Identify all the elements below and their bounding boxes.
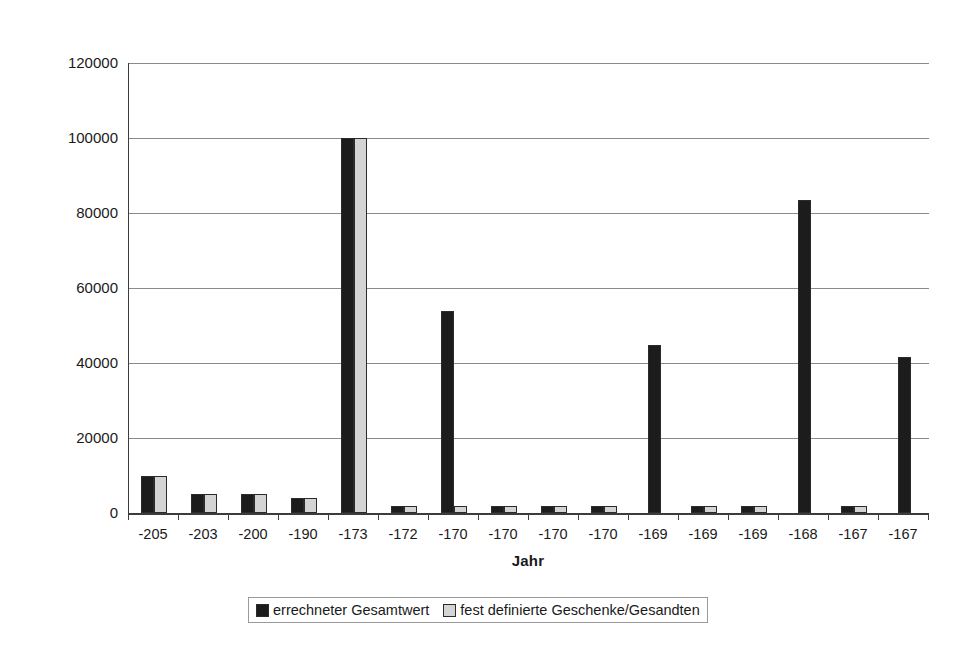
x-axis-tick-mark (378, 513, 379, 520)
x-axis-tick-mark (478, 513, 479, 520)
legend-entry: fest definierte Geschenke/Gesandten (443, 602, 699, 618)
x-axis-tick-label: -170 (428, 524, 478, 546)
x-axis-tick-label: -200 (228, 524, 278, 546)
x-axis-tick-marks (128, 513, 928, 521)
bar-chart: Gesamtwert in As 02000040000600008000010… (0, 0, 968, 652)
y-axis-tick-label: 100000 (52, 130, 118, 145)
bar (854, 506, 867, 513)
bar-group (329, 63, 379, 513)
legend-swatch-icon (443, 604, 456, 617)
bar-group (229, 63, 279, 513)
bar-group (479, 63, 529, 513)
bar (291, 498, 304, 513)
bar (354, 138, 367, 513)
x-axis-tick-mark (678, 513, 679, 520)
y-axis-tick-label: 40000 (52, 355, 118, 370)
x-axis-tick-label: -169 (728, 524, 778, 546)
x-axis-tick-label: -170 (578, 524, 628, 546)
bar (491, 506, 504, 514)
x-axis-tick-label: -169 (628, 524, 678, 546)
bar (504, 506, 517, 514)
bar-group (579, 63, 629, 513)
x-axis-tick-label: -170 (528, 524, 578, 546)
bar (554, 506, 567, 514)
x-axis-tick-label: -167 (828, 524, 878, 546)
bar (141, 476, 154, 514)
x-axis-tick-label: -167 (878, 524, 928, 546)
x-axis-tick-mark (778, 513, 779, 520)
bar (741, 506, 754, 514)
bars-layer (129, 63, 929, 513)
x-axis-tick-label: -170 (478, 524, 528, 546)
bar (754, 506, 767, 514)
bar-group (679, 63, 729, 513)
legend-label: errechneter Gesamtwert (273, 602, 429, 618)
x-axis-tick-mark (928, 513, 929, 520)
bar (404, 506, 417, 514)
bar (304, 498, 317, 513)
x-axis-tick-mark (128, 513, 129, 520)
x-axis-tick-mark (178, 513, 179, 520)
x-axis-tick-label: -190 (278, 524, 328, 546)
x-axis-tick-mark (628, 513, 629, 520)
bar-group (829, 63, 879, 513)
bar-group (129, 63, 179, 513)
legend-swatch-icon (256, 604, 269, 617)
bar (241, 494, 254, 513)
y-axis-tick-label: 60000 (52, 280, 118, 295)
legend-label: fest definierte Geschenke/Gesandten (460, 602, 699, 618)
x-axis-tick-mark (228, 513, 229, 520)
x-axis-tick-label: -205 (128, 524, 178, 546)
x-axis-tick-label: -169 (678, 524, 728, 546)
x-axis-tick-mark (578, 513, 579, 520)
bar-group (429, 63, 479, 513)
bar-group (379, 63, 429, 513)
x-axis-tick-mark (328, 513, 329, 520)
bar (841, 506, 854, 513)
x-axis-title: Jahr (128, 552, 928, 569)
y-axis-tick-label: 120000 (52, 55, 118, 70)
y-axis-tick-labels: 020000400006000080000100000120000 (52, 63, 118, 513)
bar-group (279, 63, 329, 513)
bar (341, 138, 354, 513)
bar (691, 506, 704, 514)
y-axis-tick-label: 0 (52, 505, 118, 520)
bar-group (529, 63, 579, 513)
legend-entry: errechneter Gesamtwert (256, 602, 429, 618)
x-axis-tick-mark (828, 513, 829, 520)
bar (604, 506, 617, 514)
plot-area (128, 63, 929, 513)
bar (704, 506, 717, 514)
x-axis-tick-mark (278, 513, 279, 520)
x-axis-tick-label: -203 (178, 524, 228, 546)
y-axis-title: Gesamtwert in As (22, 0, 48, 89)
bar (648, 345, 661, 513)
bar-group (729, 63, 779, 513)
bar (191, 494, 204, 513)
bar (798, 200, 811, 513)
x-axis-tick-label: -172 (378, 524, 428, 546)
bar (154, 476, 167, 514)
bar-group (179, 63, 229, 513)
x-axis-tick-mark (528, 513, 529, 520)
x-axis-tick-mark (428, 513, 429, 520)
bar (391, 506, 404, 514)
y-axis-tick-label: 20000 (52, 430, 118, 445)
x-axis-tick-labels: -205-203-200-190-173-172-170-170-170-170… (128, 524, 928, 546)
chart-legend: errechneter Gesamtwertfest definierte Ge… (248, 597, 708, 623)
x-axis-tick-label: -168 (778, 524, 828, 546)
bar (254, 494, 267, 513)
bar (591, 506, 604, 514)
bar-group (779, 63, 829, 513)
y-axis-tick-label: 80000 (52, 205, 118, 220)
x-axis-tick-label: -173 (328, 524, 378, 546)
bar (204, 494, 217, 513)
bar (541, 506, 554, 514)
x-axis-tick-mark (728, 513, 729, 520)
bar (454, 506, 467, 514)
bar-group (879, 63, 929, 513)
bar-group (629, 63, 679, 513)
bar (441, 311, 454, 514)
bar (898, 357, 911, 513)
x-axis-tick-mark (878, 513, 879, 520)
